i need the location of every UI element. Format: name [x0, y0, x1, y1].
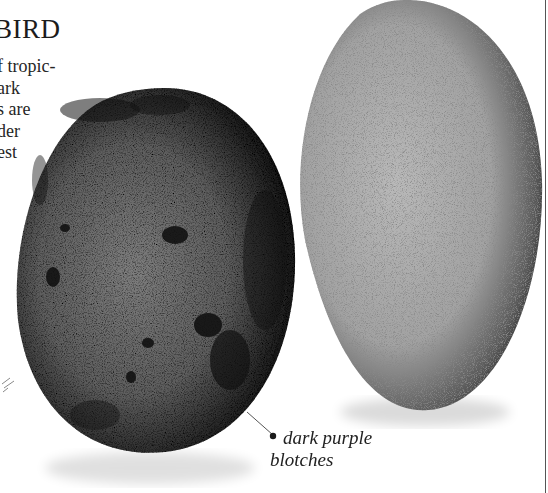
right-egg [300, 0, 542, 410]
feather-mark-icon [2, 378, 14, 392]
left-egg-shadow [45, 452, 255, 484]
book-page: BIRD f tropic- ark s are der est [0, 0, 548, 493]
page-edge-rule [545, 0, 546, 493]
left-egg [17, 88, 295, 453]
caption-line-2: blotches [270, 449, 372, 471]
egg-illustration [0, 0, 548, 493]
caption-line-1: dark purple [270, 427, 372, 449]
egg-caption: dark purple blotches [270, 427, 372, 471]
